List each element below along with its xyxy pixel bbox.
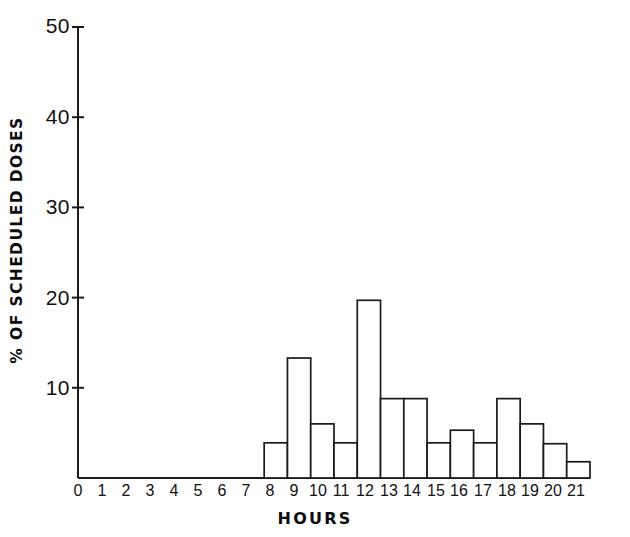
bar-hour-11	[334, 443, 357, 478]
bar-hour-8	[264, 443, 287, 478]
bar-hour-15	[427, 443, 450, 478]
bar-hour-13	[381, 399, 404, 478]
bar-hour-16	[450, 430, 473, 478]
plot-area	[0, 0, 630, 537]
bar-hour-17	[474, 443, 497, 478]
bar-hour-10	[311, 424, 334, 478]
bar-hour-14	[404, 399, 427, 478]
bar-hour-18	[497, 399, 520, 478]
bar-hour-21	[567, 462, 590, 478]
bar-hour-9	[287, 358, 310, 478]
bar-hour-20	[543, 444, 566, 478]
bar-hour-19	[520, 424, 543, 478]
chart-figure: % OF SCHEDULED DOSES 50 40 30 20 10 0 1 …	[0, 0, 630, 537]
bars	[264, 300, 590, 478]
bar-hour-12	[357, 300, 380, 478]
